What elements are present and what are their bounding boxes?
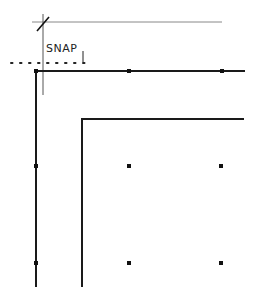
snap-label: SNAP	[46, 42, 77, 55]
snap-diagram-canvas	[0, 0, 262, 297]
outer-node[interactable]	[220, 69, 224, 73]
outer-node[interactable]	[34, 261, 38, 265]
outer-node[interactable]	[127, 69, 131, 73]
grid-point[interactable]	[127, 261, 131, 265]
grid-point[interactable]	[219, 261, 223, 265]
outer-node[interactable]	[34, 164, 38, 168]
grid-point[interactable]	[127, 164, 131, 168]
outer-node[interactable]	[34, 69, 38, 73]
grid-point[interactable]	[219, 164, 223, 168]
outer-wall-line	[36, 71, 245, 287]
